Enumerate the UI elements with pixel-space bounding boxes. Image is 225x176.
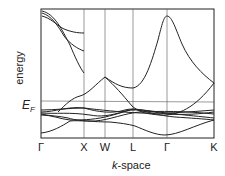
band-structure-plot [0, 0, 225, 176]
y-axis-label: energy [13, 51, 25, 85]
k-point-w: W [100, 142, 110, 153]
k-point-x: X [80, 142, 87, 153]
k-point-k: K [210, 142, 217, 153]
k-point-gamma-2: Γ [164, 142, 170, 153]
fermi-label-main: E [22, 98, 30, 112]
fermi-label-sub: F [30, 105, 35, 114]
x-axis-label: k-space [112, 159, 151, 171]
x-axis-label-rest: -space [118, 159, 151, 171]
k-point-l: L [130, 142, 136, 153]
energy-bands [41, 11, 214, 135]
fermi-level-label: EF [22, 98, 35, 114]
plot-frame [41, 9, 214, 138]
k-point-gamma-1: Γ [38, 142, 44, 153]
